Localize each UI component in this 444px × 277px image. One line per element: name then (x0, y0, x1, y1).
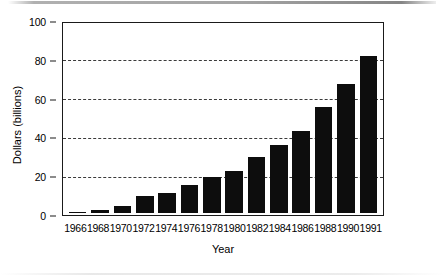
y-tick-mark (50, 216, 56, 217)
x-tick-label: 1982 (246, 222, 269, 234)
bar-1991 (360, 56, 377, 214)
bar-1970 (114, 206, 131, 214)
x-tick-label: 1991 (359, 222, 382, 234)
bar-slot (312, 25, 334, 214)
y-tick-label: 0 (40, 211, 46, 222)
x-axis-title: Year (62, 243, 384, 255)
bar-1972 (136, 196, 153, 213)
bar-slot (67, 25, 89, 214)
y-tick-mark (50, 22, 56, 23)
plot-area (62, 22, 384, 216)
bar-slot (357, 25, 379, 214)
y-tick-mark (50, 99, 56, 100)
bar-1990 (337, 84, 354, 213)
bar-slot (335, 25, 357, 214)
bar-slot (201, 25, 223, 214)
bar-slot (178, 25, 200, 214)
y-tick-mark (50, 138, 56, 139)
bar-slot (268, 25, 290, 214)
scan-artifact-top (8, 1, 436, 4)
x-tick-label: 1978 (200, 222, 223, 234)
x-tick-label: 1980 (223, 222, 246, 234)
bar-1978 (203, 177, 220, 214)
y-tick-label: 100 (29, 17, 46, 28)
x-tick-label: 1990 (337, 222, 360, 234)
bar-1988 (315, 107, 332, 214)
x-tick-label: 1966 (64, 222, 87, 234)
y-tick-mark (50, 177, 56, 178)
bar-1982 (248, 157, 265, 214)
scan-artifact-bottom (0, 273, 444, 275)
x-tick-label: 1974 (155, 222, 178, 234)
x-tick-label: 1986 (291, 222, 314, 234)
y-axis-ticks: 100 80 60 40 20 0 (0, 22, 56, 216)
bar-slot (223, 25, 245, 214)
y-tick-label: 60 (35, 94, 46, 105)
bar-slot (290, 25, 312, 214)
x-tick-label: 1968 (87, 222, 110, 234)
x-tick-label: 1988 (314, 222, 337, 234)
y-tick-label: 20 (35, 172, 46, 183)
x-tick-label: 1970 (109, 222, 132, 234)
bar-1974 (158, 193, 175, 214)
bar-1968 (91, 210, 108, 213)
bar-slot (111, 25, 133, 214)
bar-1986 (292, 131, 309, 213)
y-tick-label: 80 (35, 56, 46, 67)
bar-1984 (270, 145, 287, 213)
bar-1966 (69, 212, 86, 214)
x-tick-label: 1984 (268, 222, 291, 234)
bar-chart-figure: 100 80 60 40 20 0 Dollars (billions) 196… (0, 0, 444, 277)
bar-slot (156, 25, 178, 214)
bar-slot (245, 25, 267, 214)
x-axis-ticks: 1966196819701972197419761978198019821984… (62, 222, 384, 234)
bar-slot (89, 25, 111, 214)
x-tick-label: 1972 (132, 222, 155, 234)
bar-series (65, 25, 382, 214)
x-tick-label: 1976 (178, 222, 201, 234)
y-axis-title: Dollars (billions) (11, 45, 23, 205)
bar-1980 (225, 171, 242, 213)
bar-1976 (181, 185, 198, 213)
y-tick-label: 40 (35, 133, 46, 144)
bar-slot (134, 25, 156, 214)
y-tick-mark (50, 60, 56, 61)
